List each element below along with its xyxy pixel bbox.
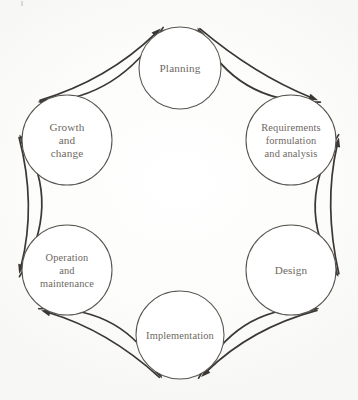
node-label-requirements: and analysis <box>265 148 318 159</box>
cycle-diagram-canvas: PlanningRequirementsformulationand analy… <box>0 0 358 400</box>
node-label-planning: Planning <box>160 62 201 74</box>
node-label-operation: and <box>59 265 75 276</box>
node-label-growth: Growth <box>49 121 84 133</box>
node-design[interactable]: Design <box>246 225 336 315</box>
node-label-requirements: formulation <box>266 135 317 146</box>
node-growth[interactable]: Growthandchange <box>22 95 112 185</box>
node-label-operation: maintenance <box>40 278 94 289</box>
node-requirements[interactable]: Requirementsformulationand analysis <box>246 95 336 185</box>
node-label-design: Design <box>275 264 308 276</box>
node-implementation[interactable]: Implementation <box>136 291 224 379</box>
node-label-requirements: Requirements <box>261 122 321 133</box>
node-operation[interactable]: Operationandmaintenance <box>22 225 112 315</box>
node-label-growth: and <box>59 134 76 146</box>
arrow-line-growth-to-planning <box>40 34 155 101</box>
node-planning[interactable]: Planning <box>139 27 221 109</box>
nodes-layer: PlanningRequirementsformulationand analy… <box>22 27 336 379</box>
node-label-growth: change <box>51 147 84 159</box>
cycle-diagram: PlanningRequirementsformulationand analy… <box>0 0 358 400</box>
node-label-operation: Operation <box>46 252 90 263</box>
node-label-implementation: Implementation <box>146 330 215 341</box>
